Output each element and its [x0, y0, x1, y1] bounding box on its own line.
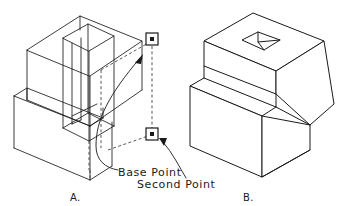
- solid-lower-right-face: [262, 116, 310, 177]
- construction-dashed-lines: [89, 42, 152, 180]
- base-point-marker-dot: [150, 132, 154, 136]
- dashed-projection-to-second-point: [101, 42, 150, 70]
- second-point-marker[interactable]: [146, 33, 158, 45]
- upper-block-right-bottom-edge: [90, 90, 142, 126]
- caption-left: A.: [70, 192, 81, 203]
- base-point-leader: [96, 54, 143, 170]
- base-front-bottom-edge: [14, 148, 90, 180]
- extruded-column-prism: [63, 24, 114, 141]
- upper-wireframe-block: [27, 16, 142, 126]
- drawing-canvas: Base Point Second Point A.: [0, 0, 354, 206]
- base-point-leader-curve: [96, 58, 140, 170]
- second-point-label: Second Point: [137, 178, 216, 191]
- base-point-marker[interactable]: [146, 128, 158, 140]
- object-b-solid: B.: [190, 13, 334, 203]
- technical-drawing-figure: Base Point Second Point A.: [0, 0, 354, 206]
- base-bottom-right-edge: [90, 166, 112, 180]
- base-top-back-edge: [27, 88, 103, 118]
- upper-block-top-face: [27, 16, 142, 76]
- column-top-face: [63, 24, 114, 51]
- dashed-to-base-point: [108, 136, 148, 150]
- caption-right: B.: [243, 192, 254, 203]
- second-point-marker-dot: [150, 37, 154, 41]
- object-a-wireframe: Base Point Second Point A.: [14, 16, 216, 203]
- column-bottom-face: [63, 126, 114, 141]
